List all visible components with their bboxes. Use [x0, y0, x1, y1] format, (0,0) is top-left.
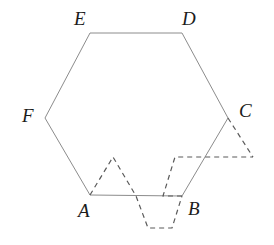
- hexagon-abcdef: [45, 33, 228, 196]
- figure-canvas: [0, 0, 274, 245]
- vertex-label-d: D: [182, 9, 196, 28]
- geometry-figure: A B C D E F: [0, 0, 274, 245]
- dashed-left-triangle-zigzag: [90, 157, 182, 228]
- vertex-label-b: B: [188, 199, 200, 218]
- vertex-label-a: A: [78, 201, 90, 220]
- dashed-right-parallelogram: [163, 157, 253, 196]
- vertex-label-c: C: [239, 101, 252, 120]
- vertex-label-e: E: [74, 9, 86, 28]
- vertex-label-f: F: [22, 106, 34, 125]
- dashed-c-triangle: [228, 118, 253, 157]
